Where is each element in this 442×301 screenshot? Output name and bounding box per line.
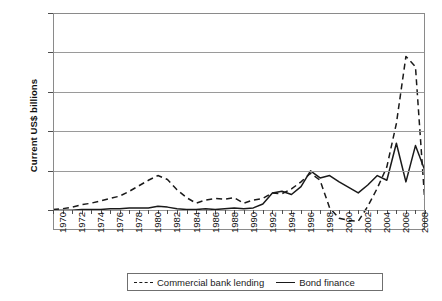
legend-swatch-solid-icon (276, 282, 295, 283)
x-tick-label-1976: 1976 (114, 212, 125, 233)
x-tick-label-1992: 1992 (267, 212, 278, 233)
x-tick-mark-1982 (167, 210, 168, 214)
plot-border (53, 13, 425, 230)
x-tick-mark-1984 (187, 210, 188, 214)
x-tick-label-1996: 1996 (305, 212, 316, 233)
x-tick-mark-1980 (148, 210, 149, 214)
legend-item-0[interactable]: Commercial bank lending (134, 277, 264, 288)
x-tick-mark-1998 (320, 210, 321, 214)
x-tick-label-1974: 1974 (95, 212, 106, 233)
x-tick-mark-1970 (53, 210, 54, 214)
x-tick-mark-2002 (358, 210, 359, 214)
x-tick-mark-1996 (301, 210, 302, 214)
x-tick-mark-1988 (225, 210, 226, 214)
x-tick-mark-2006 (396, 210, 397, 214)
x-tick-label-2008: 2008 (419, 212, 430, 233)
x-tick-mark-2004 (377, 210, 378, 214)
x-tick-label-1986: 1986 (210, 212, 221, 233)
legend-label: Bond finance (299, 277, 354, 288)
x-tick-label-1972: 1972 (76, 212, 87, 233)
x-tick-mark-1994 (282, 210, 283, 214)
legend-label: Commercial bank lending (157, 277, 264, 288)
x-tick-label-1988: 1988 (229, 212, 240, 233)
x-tick-label-2004: 2004 (381, 212, 392, 233)
x-tick-mark-1990 (244, 210, 245, 214)
legend-swatch-dashed-icon (134, 282, 153, 283)
y-axis-title: Current US$ billions (28, 41, 39, 211)
x-tick-label-1978: 1978 (133, 212, 144, 233)
x-tick-label-2000: 2000 (343, 212, 354, 233)
x-tick-label-1998: 1998 (324, 212, 335, 233)
plot-area (53, 13, 425, 230)
chart-legend: Commercial bank lendingBond finance (127, 273, 383, 291)
x-tick-mark-1974 (91, 210, 92, 214)
x-tick-mark-1986 (206, 210, 207, 214)
x-tick-label-1994: 1994 (286, 212, 297, 233)
x-tick-mark-1976 (110, 210, 111, 214)
chart-figure: Current US$ billions 050100150200250 197… (0, 0, 442, 301)
x-tick-label-2002: 2002 (362, 212, 373, 233)
x-tick-mark-1978 (129, 210, 130, 214)
x-tick-mark-2008 (415, 210, 416, 214)
x-tick-mark-1972 (72, 210, 73, 214)
x-tick-label-1990: 1990 (248, 212, 259, 233)
x-tick-label-2006: 2006 (400, 212, 411, 233)
x-tick-mark-2000 (339, 210, 340, 214)
x-tick-label-1982: 1982 (171, 212, 182, 233)
x-tick-mark-1992 (263, 210, 264, 214)
x-tick-label-1984: 1984 (191, 212, 202, 233)
x-tick-label-1980: 1980 (152, 212, 163, 233)
x-tick-label-1970: 1970 (57, 212, 68, 233)
legend-item-1[interactable]: Bond finance (276, 277, 354, 288)
